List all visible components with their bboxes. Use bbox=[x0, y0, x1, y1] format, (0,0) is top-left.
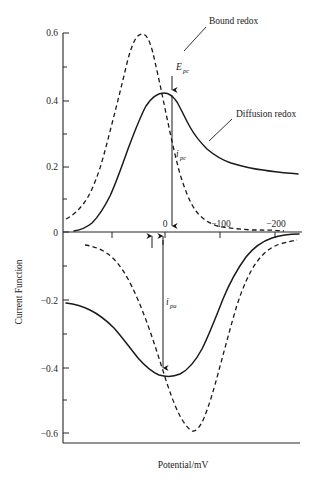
diffusion-redox-anodic-curve bbox=[66, 234, 299, 376]
x-axis-ticks bbox=[112, 232, 275, 238]
leader-lines bbox=[184, 27, 232, 141]
y-tick-label-0.2: 0.2 bbox=[46, 162, 58, 172]
x-axis-title: Potential/mV bbox=[158, 460, 209, 470]
x-tick-label-0: 0 bbox=[163, 219, 168, 229]
ipa-subscript-label: pa bbox=[169, 302, 177, 309]
epc-subscript-label: pc bbox=[182, 67, 189, 74]
y-tick-label-0.4: 0.4 bbox=[46, 96, 58, 106]
series-diffusion-redox bbox=[66, 93, 299, 376]
y-tick-label-0.6: 0.6 bbox=[46, 28, 58, 38]
series-bound-redox bbox=[66, 34, 297, 431]
chart-figure: 0.6 0.4 0.2 0 −0.2 −0.4 −0.6 0 −100 −200 bbox=[0, 0, 328, 483]
diffusion-redox-label: Diffusion redox bbox=[236, 109, 296, 119]
y-axis-major-ticks bbox=[63, 33, 69, 433]
ipc-annotation: i pc bbox=[176, 149, 186, 161]
x-tick-label--100: −100 bbox=[211, 219, 231, 229]
y-axis-minor-ticks bbox=[63, 67, 67, 400]
ipa-annotation: i pa bbox=[166, 297, 177, 309]
ipa-base-label: i bbox=[166, 297, 169, 307]
y-tick-labels: 0.6 0.4 0.2 0 −0.2 −0.4 −0.6 bbox=[41, 28, 58, 439]
epc-base-label: E bbox=[175, 62, 182, 72]
axes-group bbox=[63, 33, 302, 443]
x-tick-label--200: −200 bbox=[266, 219, 286, 229]
bound-redox-leader bbox=[184, 27, 206, 51]
bound-redox-anodic-curve bbox=[85, 240, 297, 431]
ipc-base-label: i bbox=[176, 149, 179, 159]
y-axis-title: Current Function bbox=[14, 259, 24, 324]
bound-redox-cathodic-curve bbox=[66, 34, 284, 231]
cyclic-voltammogram-plot: 0.6 0.4 0.2 0 −0.2 −0.4 −0.6 0 −100 −200 bbox=[0, 0, 328, 483]
y-tick-label--0.2: −0.2 bbox=[41, 296, 58, 306]
ipc-subscript-label: pc bbox=[179, 154, 186, 161]
epc-annotation: E pc bbox=[175, 62, 189, 74]
diffusion-redox-leader bbox=[209, 119, 232, 141]
y-tick-label--0.6: −0.6 bbox=[41, 429, 58, 439]
y-tick-label-0: 0 bbox=[53, 228, 58, 238]
bound-redox-label: Bound redox bbox=[209, 16, 259, 26]
y-tick-label--0.4: −0.4 bbox=[41, 364, 58, 374]
